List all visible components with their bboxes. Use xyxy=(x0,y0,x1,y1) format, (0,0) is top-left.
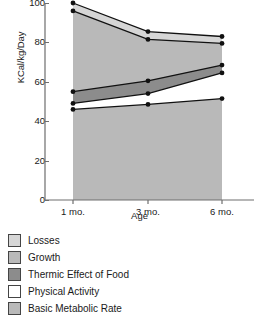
legend-item: Growth xyxy=(8,249,248,266)
data-point-marker xyxy=(220,96,225,101)
data-point-marker xyxy=(220,71,225,76)
x-axis-label: Age xyxy=(0,210,279,221)
area-band-basic-metabolic-rate xyxy=(73,99,222,200)
data-point-marker xyxy=(146,37,151,42)
data-point-marker xyxy=(71,101,76,106)
legend-item: Thermic Effect of Food xyxy=(8,266,248,283)
legend-label: Losses xyxy=(28,235,60,247)
chart-figure: KCal/kg/Day 020406080100 1 mo.3 mo.6 mo.… xyxy=(0,0,279,324)
data-point-marker xyxy=(146,102,151,107)
plot-area: KCal/kg/Day 020406080100 1 mo.3 mo.6 mo.… xyxy=(0,0,279,222)
legend-swatch xyxy=(8,251,21,264)
legend-item: Losses xyxy=(8,232,248,249)
data-point-marker xyxy=(146,91,151,96)
legend-item: Basic Metabolic Rate xyxy=(8,300,248,317)
legend-swatch xyxy=(8,268,21,281)
stacked-area-plot xyxy=(0,0,279,210)
legend-label: Basic Metabolic Rate xyxy=(28,303,122,315)
legend-swatch xyxy=(8,302,21,315)
legend-swatch xyxy=(8,234,21,247)
legend-label: Thermic Effect of Food xyxy=(28,269,129,281)
legend-label: Growth xyxy=(28,252,60,264)
data-point-marker xyxy=(220,34,225,39)
data-point-marker xyxy=(146,78,151,83)
data-point-marker xyxy=(146,29,151,34)
data-point-marker xyxy=(71,1,76,6)
data-point-marker xyxy=(220,41,225,46)
data-point-marker xyxy=(220,63,225,68)
data-point-marker xyxy=(71,8,76,13)
legend-item: Physical Activity xyxy=(8,283,248,300)
data-point-marker xyxy=(71,89,76,94)
legend: LossesGrowthThermic Effect of FoodPhysic… xyxy=(8,232,248,317)
data-point-marker xyxy=(71,107,76,112)
legend-label: Physical Activity xyxy=(28,286,99,298)
legend-swatch xyxy=(8,285,21,298)
